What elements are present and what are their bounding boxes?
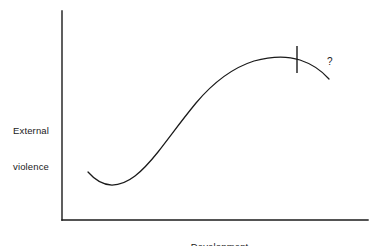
external-violence-curve [88, 57, 329, 185]
y-axis-label-line-2: violence [13, 161, 49, 173]
y-axis-label-line-1: External [13, 125, 49, 137]
plot-canvas [0, 0, 370, 246]
y-axis-label: External violence [13, 101, 49, 197]
x-axis-label-text: Development [191, 241, 249, 246]
x-axis-label: Development [0, 229, 370, 246]
uncertain-future-question-mark: ? [327, 57, 333, 67]
figure-container: External violence Development ? [0, 0, 370, 246]
